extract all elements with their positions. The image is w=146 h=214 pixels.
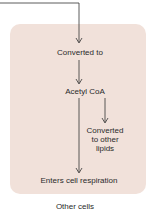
incoming-connector-line [0, 3, 79, 42]
node-converted-to: Converted to [50, 48, 110, 57]
node-acetyl-coa: Acetyl CoA [55, 87, 115, 96]
caption-other-cells: Other cells [50, 202, 100, 211]
node-text-line: to other [80, 135, 130, 144]
node-converted-other-lipids: Converted to other lipids [80, 126, 130, 153]
node-text-line: Converted [80, 126, 130, 135]
node-enters-cell-respiration: Enters cell respiration [28, 176, 130, 185]
node-text-line: lipids [80, 144, 130, 153]
